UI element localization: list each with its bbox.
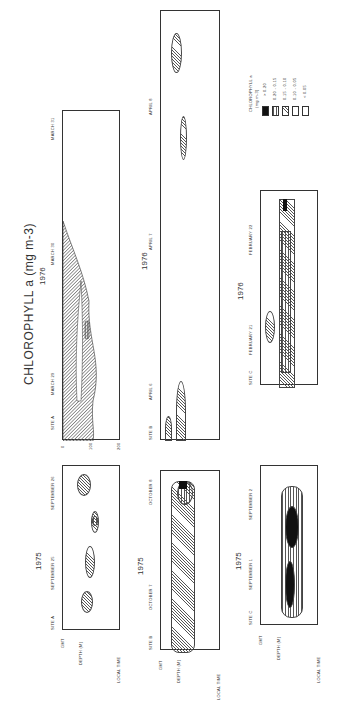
core-gt020: [179, 481, 187, 489]
panel-siteA-1975: [62, 465, 120, 630]
siteA-1976-site: SITE A: [50, 416, 55, 430]
year-label-1976-top: 1976: [38, 267, 47, 285]
siteA-1976-date-2: MARCH 30: [50, 242, 55, 265]
panel-siteC-1975: [260, 465, 318, 625]
legend-swatch-gt020: [262, 106, 269, 116]
siteC-1975-date-1: SEPTEMBER 1: [248, 559, 253, 590]
patch-015-010-shallow: [265, 311, 275, 343]
legend: CHLOROPHYLL a (mg m-3) > 0.20 0.20 - 0.1…: [246, 62, 316, 122]
patch-015-010-a: [171, 33, 182, 73]
siteB-1975-local-time: LOCAL TIME: [216, 673, 221, 700]
core-gt020: [283, 199, 287, 211]
siteA-1976-date-3: MARCH 31: [50, 117, 55, 140]
patch-015-010-d: [81, 591, 93, 613]
siteB-1975-gmt: GMT: [158, 660, 163, 670]
legend-label-020-015: 0.20 - 0.15: [272, 78, 277, 100]
siteA-1975-local-time: LOCAL TIME: [116, 656, 121, 683]
year-label-siteC-1975: 1975: [234, 552, 243, 570]
patch-015-010-d: [165, 416, 172, 441]
siteA-1975-date-2: SEPTEMBER 26: [50, 476, 55, 510]
legend-label-gt020: > 0.20: [262, 83, 267, 96]
siteA-1975-gmt: GMT: [60, 638, 65, 648]
legend-swatch-020-015: [272, 106, 279, 116]
patch-015-010-c: [176, 381, 186, 441]
siteC-1975-site: SITE C: [248, 610, 253, 625]
core-gt020-a: [285, 506, 299, 548]
siteC-1975-depth: DEPTH (M): [276, 637, 281, 660]
siteB-1976-site: SITE B: [148, 426, 153, 440]
siteA-1976-depth-200: 200: [116, 442, 121, 450]
siteC-1975-date-2: SEPTEMBER 2: [248, 489, 253, 520]
legend-label-lt005: < 0.05: [302, 85, 307, 98]
legend-units: (mg m-3): [254, 89, 259, 108]
legend-swatch-lt005: [302, 106, 309, 116]
siteB-1975-depth: DEPTH (M): [176, 660, 181, 683]
year-label-siteA-1975: 1975: [34, 552, 43, 570]
panel-siteB-1976: [160, 10, 220, 440]
siteC-1975-gmt: GMT: [258, 635, 263, 645]
legend-swatch-010-005: [292, 106, 299, 116]
siteA-1976-date-1: MARCH 29: [50, 372, 55, 395]
contour-005-010: [161, 23, 191, 441]
siteB-1976-date-1: APRIL 6: [148, 383, 153, 400]
siteB-1976-date-3: APRIL 8: [148, 98, 153, 115]
panel-siteC-1976: [260, 190, 318, 385]
panel-siteB-1975: [160, 470, 220, 650]
siteB-1975-site: SITE B: [148, 636, 153, 650]
siteA-1975-date-1: SEPTEMBER 25: [50, 556, 55, 590]
siteA-1976-depth-100: 100: [88, 442, 93, 450]
siteB-1976-date-2: APRIL 7: [148, 233, 153, 250]
legend-swatch-015-010: [282, 106, 289, 116]
siteC-1976-site: SITE C: [248, 370, 253, 385]
year-label-siteB-1975: 1975: [136, 557, 145, 575]
legend-title: CHLOROPHYLL a: [248, 75, 253, 112]
siteC-1976-date-1: FEBRUARY 21: [248, 325, 253, 356]
patch-015-010-c: [85, 546, 95, 578]
contour-lines: [63, 111, 121, 441]
siteA-1976-depth-0: 0: [60, 445, 65, 448]
legend-label-015-010: 0.15 - 0.10: [282, 78, 287, 100]
band-020-015: [281, 231, 291, 373]
siteB-1975-date-1: OCTOBER 7: [148, 584, 153, 610]
figure-title: CHLOROPHYLL a (mg m-3): [22, 223, 36, 385]
siteA-1975-depth: DEPTH (M): [78, 642, 83, 665]
siteA-1975-site: SITE A: [50, 616, 55, 630]
patch-015-010-a: [77, 474, 91, 496]
figure-title-text: CHLOROPHYLL a (mg m-3): [22, 223, 36, 385]
siteC-1976-date-2: FEBRUARY 22: [248, 225, 253, 256]
siteB-1975-date-2: OCTOBER 8: [148, 479, 153, 505]
siteC-1975-local-time: LOCAL TIME: [316, 656, 321, 683]
legend-label-010-005: 0.10 - 0.05: [292, 78, 297, 100]
year-label-siteB-1976: 1976: [140, 252, 149, 270]
patch-015-010-b: [180, 116, 187, 160]
patch-020-015: [92, 516, 98, 526]
band-015-010: [171, 481, 195, 653]
panel-siteA-1976: [62, 110, 120, 440]
core-gt020-b: [285, 561, 295, 608]
year-label-siteC-1976: 1976: [236, 282, 245, 300]
